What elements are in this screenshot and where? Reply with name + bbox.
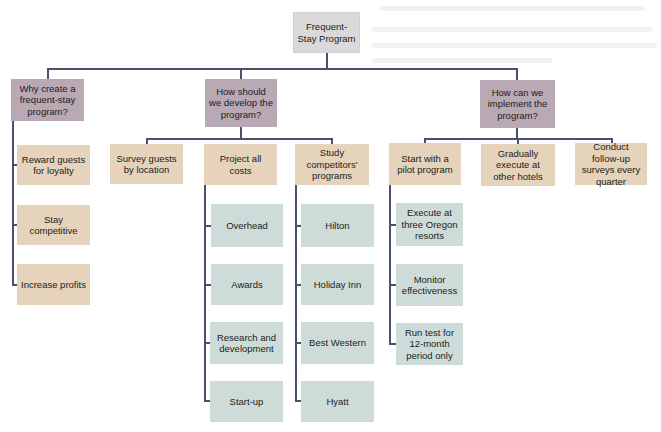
action-node: Survey guests by location (110, 144, 183, 184)
connector (326, 53, 328, 69)
detail-node: Run test for 12-month period only (396, 323, 463, 365)
connector (146, 138, 333, 140)
node-label: Why create a frequent-stay program? (15, 83, 80, 118)
question-node-why: Why create a frequent-stay program? (11, 79, 84, 121)
detail-node: Execute at three Oregon resorts (396, 203, 463, 246)
action-node: Reward guests for loyalty (17, 145, 90, 185)
node-label: Start with a pilot program (393, 153, 457, 176)
node-label: Conduct follow-up surveys every quarter (579, 141, 643, 187)
action-node: Stay competitive (17, 205, 90, 245)
background-bleed-line (372, 43, 657, 48)
background-bleed-line (372, 27, 652, 32)
detail-node: Hilton (301, 204, 374, 247)
node-label: How should we develop the program? (209, 86, 273, 121)
connector (204, 284, 211, 286)
node-label: Holiday Inn (314, 279, 362, 291)
action-node: Study competitors' programs (295, 144, 369, 185)
node-label: Overhead (226, 220, 268, 232)
node-label: Best Western (309, 337, 366, 349)
action-node: Conduct follow-up surveys every quarter (575, 143, 647, 185)
detail-node: Monitor effectiveness (396, 264, 463, 306)
background-bleed-line (380, 6, 645, 11)
connector (204, 185, 206, 402)
connector (389, 343, 396, 345)
node-label: Gradually execute at other hotels (485, 148, 551, 183)
connector (389, 224, 396, 226)
question-node-implement: How can we implement the program? (480, 80, 555, 128)
node-label: Project all costs (208, 153, 273, 176)
detail-node: Best Western (301, 322, 374, 364)
node-label: Study competitors' programs (299, 147, 365, 182)
connector (389, 284, 396, 286)
connector (240, 68, 242, 79)
action-node: Project all costs (204, 144, 277, 185)
detail-node: Research and development (210, 322, 283, 364)
node-label: Hilton (325, 220, 349, 232)
node-label: Awards (231, 279, 263, 291)
node-label: Increase profits (21, 279, 86, 291)
node-label: Stay competitive (21, 214, 86, 237)
detail-node: Awards (211, 264, 283, 305)
detail-node: Start-up (210, 381, 283, 422)
connector (47, 68, 49, 79)
node-label: Monitor effectiveness (400, 274, 459, 297)
root-label: Frequent-Stay Program (297, 21, 356, 44)
question-node-develop: How should we develop the program? (205, 79, 277, 127)
node-label: Execute at three Oregon resorts (400, 207, 459, 242)
connector (12, 121, 14, 286)
action-node: Start with a pilot program (389, 143, 461, 185)
node-label: Research and development (214, 332, 279, 355)
node-label: Survey guests by location (114, 153, 179, 176)
node-label: Hyatt (326, 396, 348, 408)
root-node: Frequent-Stay Program (293, 12, 360, 53)
action-node: Increase profits (17, 264, 90, 305)
node-label: Run test for 12-month period only (400, 327, 459, 362)
detail-node: Holiday Inn (301, 264, 374, 305)
node-label: How can we implement the program? (484, 87, 551, 122)
node-label: Reward guests for loyalty (21, 154, 86, 177)
connector (389, 185, 391, 344)
connector (204, 225, 211, 227)
connector (516, 68, 518, 80)
connector (47, 68, 518, 70)
connector (295, 185, 297, 402)
node-label: Start-up (230, 396, 264, 408)
detail-node: Overhead (211, 204, 283, 247)
background-bleed-line (372, 58, 552, 63)
action-node: Gradually execute at other hotels (481, 144, 555, 186)
detail-node: Hyatt (301, 381, 374, 422)
